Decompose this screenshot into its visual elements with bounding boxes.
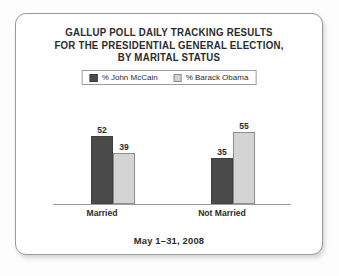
axis-baseline (53, 204, 291, 205)
bar-wrap-not-married-obama: 55 (233, 132, 255, 204)
legend-entry-mccain: % John McCain (90, 73, 158, 82)
category-labels: Married Not Married (53, 208, 291, 220)
legend-label-mccain: % John McCain (102, 73, 158, 82)
bar-value-married-mccain: 52 (91, 126, 113, 135)
chart-card: GALLUP POLL DAILY TRACKING RESULTS FOR T… (15, 13, 323, 255)
bar-wrap-married-mccain: 52 (91, 136, 113, 204)
bar-married-obama (113, 153, 135, 204)
legend-label-obama: % Barack Obama (186, 73, 249, 82)
bar-married-mccain (91, 136, 113, 204)
chart-legend: % John McCain % Barack Obama (82, 70, 257, 85)
bar-not-married-mccain (211, 158, 233, 204)
category-label-not-married: Not Married (192, 208, 252, 218)
bar-wrap-not-married-mccain: 35 (211, 158, 233, 204)
chart-title-line-3: BY MARITAL STATUS (24, 52, 315, 65)
bar-not-married-obama (233, 132, 255, 204)
bar-wrap-married-obama: 39 (113, 153, 135, 204)
category-label-married: Married (72, 208, 132, 218)
legend-entry-obama: % Barack Obama (174, 73, 249, 82)
obama-swatch-icon (174, 74, 182, 82)
mccain-swatch-icon (90, 74, 98, 82)
chart-caption: May 1–31, 2008 (16, 235, 322, 246)
bar-group-not-married: 35 55 (211, 126, 255, 204)
bar-value-married-obama: 39 (113, 143, 135, 152)
chart-title-line-1: GALLUP POLL DAILY TRACKING RESULTS (24, 27, 315, 40)
plot-area: 52 39 35 55 (53, 126, 291, 204)
bar-value-not-married-mccain: 35 (211, 148, 233, 157)
bar-group-married: 52 39 (91, 126, 135, 204)
chart-title-line-2: FOR THE PRESIDENTIAL GENERAL ELECTION, (24, 40, 315, 53)
bar-value-not-married-obama: 55 (233, 122, 255, 131)
chart-title: GALLUP POLL DAILY TRACKING RESULTS FOR T… (16, 27, 322, 65)
